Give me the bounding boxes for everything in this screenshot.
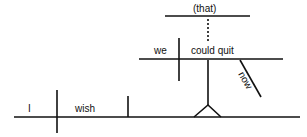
main-verb-label: wish bbox=[75, 104, 95, 114]
pedestal bbox=[194, 105, 221, 117]
clause-verb-label: could quit bbox=[191, 46, 234, 56]
connector-label: (that) bbox=[193, 4, 216, 14]
diagram-lines bbox=[0, 0, 307, 137]
clause-subject-label: we bbox=[154, 46, 167, 56]
main-subject-label: I bbox=[28, 104, 31, 114]
